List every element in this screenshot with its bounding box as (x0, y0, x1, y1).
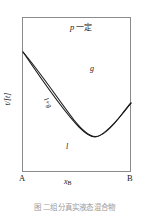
constant-text: 一定 (76, 23, 92, 32)
endpoint-label-a: A (19, 174, 25, 183)
region-label-gas: g (90, 65, 94, 73)
pressure-symbol: p (70, 22, 74, 32)
x-axis-label: xB (64, 178, 72, 186)
x-axis-subscript: B (68, 180, 72, 186)
y-axis-label: t/[t] (4, 79, 12, 119)
figure-caption: 图 二组分真实液态混合物 (0, 201, 149, 212)
figure-caption-text: 图 二组分真实液态混合物 (34, 203, 115, 212)
plot-frame (22, 17, 131, 172)
pressure-constant-label: p一定 (70, 23, 92, 32)
endpoint-label-b: B (127, 174, 133, 183)
region-label-liquid: l (66, 143, 68, 151)
phase-diagram-figure: p一定 g l l+g t/[t] xB A B 图 二组分真实液态混合物 (0, 0, 149, 212)
